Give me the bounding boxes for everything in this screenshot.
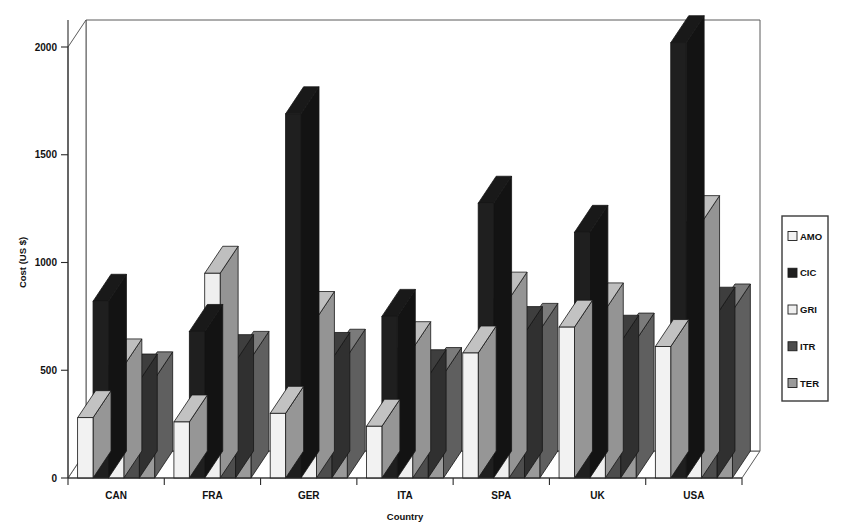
y-axis-title: Cost (US $) bbox=[17, 237, 28, 288]
white-swatch-icon bbox=[788, 232, 797, 241]
x-tick-label-usa: USA bbox=[683, 490, 704, 501]
x-tick-label-uk: UK bbox=[590, 490, 605, 501]
legend-item-itr[interactable]: ITR bbox=[788, 341, 815, 352]
y-tick-label: 0 bbox=[51, 473, 57, 484]
bar-chart-figure: 0500100015002000 CANFRAGERITASPAUKUSA Co… bbox=[0, 0, 847, 529]
legend-label: GRI bbox=[800, 304, 817, 315]
legend-item-gri[interactable]: GRI bbox=[788, 304, 817, 315]
y-tick-label: 2000 bbox=[35, 42, 58, 53]
bar-amo-usa bbox=[655, 320, 688, 478]
legend-label: AMO bbox=[800, 231, 822, 242]
chart-canvas: 0500100015002000 CANFRAGERITASPAUKUSA Co… bbox=[0, 0, 847, 529]
mid-gray-swatch-icon bbox=[788, 379, 797, 388]
svg-text:Cost (US $): Cost (US $) bbox=[17, 237, 28, 288]
legend-item-amo[interactable]: AMO bbox=[788, 231, 822, 242]
x-tick-label-ita: ITA bbox=[397, 490, 412, 501]
x-tick-label-ger: GER bbox=[298, 490, 320, 501]
dark-gray-swatch-icon bbox=[788, 342, 797, 351]
legend-label: CIC bbox=[800, 267, 817, 278]
x-tick-label-fra: FRA bbox=[202, 490, 223, 501]
y-tick-label: 1500 bbox=[35, 149, 58, 160]
x-tick-label-can: CAN bbox=[105, 490, 127, 501]
y-tick-label: 1000 bbox=[35, 257, 58, 268]
y-tick-label: 500 bbox=[40, 365, 57, 376]
x-tick-label-spa: SPA bbox=[491, 490, 511, 501]
legend-label: TER bbox=[800, 378, 819, 389]
legend-item-ter[interactable]: TER bbox=[788, 378, 819, 389]
black-swatch-icon bbox=[788, 268, 797, 277]
x-axis-title: Country bbox=[387, 511, 424, 522]
white-swatch-icon bbox=[788, 305, 797, 314]
legend-label: ITR bbox=[800, 341, 815, 352]
bar-amo-spa bbox=[463, 326, 496, 478]
legend-item-cic[interactable]: CIC bbox=[788, 267, 817, 278]
chart-legend[interactable]: AMOCICGRIITRTER bbox=[782, 216, 828, 401]
bar-amo-uk bbox=[559, 300, 592, 478]
